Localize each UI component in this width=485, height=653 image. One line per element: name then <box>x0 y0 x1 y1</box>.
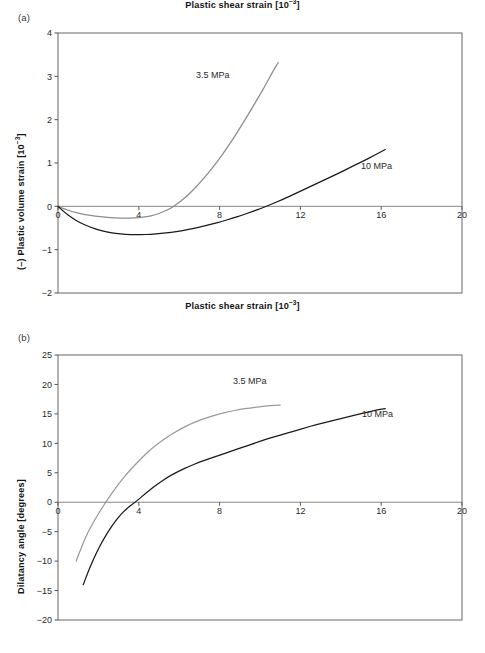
x-tick-label: 4 <box>136 210 141 220</box>
x-tick-label: 16 <box>376 210 386 220</box>
x-axis-title-a-exponent: −3 <box>289 299 297 306</box>
y-tick-label: 0 <box>47 202 52 212</box>
y-tick-label: 20 <box>42 380 52 390</box>
plot-frame <box>58 355 462 620</box>
y-tick-label: 2 <box>47 115 52 125</box>
y-tick-label: −10 <box>37 556 52 566</box>
x-tick-label: 8 <box>217 210 222 220</box>
series-line-3-5-mpa <box>76 405 280 561</box>
x-axis-title-b: Plastic shear strain [10−3] <box>0 0 485 10</box>
x-tick-label: 0 <box>55 210 60 220</box>
y-tick-label: 5 <box>47 468 52 478</box>
x-tick-label: 20 <box>457 210 467 220</box>
figure-container: (a) 43210−1−20481216203.5 MPa10 MPa Plas… <box>0 0 485 653</box>
y-axis-title-a: (–) Plastic volume strain [10−3] <box>16 133 26 270</box>
y-tick-label: 15 <box>42 409 52 419</box>
series-annotation-label: 10 MPa <box>361 161 392 171</box>
y-tick-label: −1 <box>42 245 52 255</box>
x-tick-label: 16 <box>376 506 386 516</box>
x-axis-title-b-exponent: −3 <box>289 0 297 5</box>
series-line-3-5-mpa <box>58 62 278 218</box>
x-axis-title-a-tail: ] <box>297 301 300 311</box>
series-line-10-mpa <box>58 150 385 235</box>
x-axis-title-a: Plastic shear strain [10−3] <box>0 301 485 311</box>
y-axis-title-b: Dilatancy angle [degrees] <box>16 479 26 594</box>
series-annotation-label: 10 MPa <box>362 409 393 419</box>
y-tick-label: −20 <box>37 615 52 625</box>
y-axis-title-a-tail: ] <box>16 133 26 136</box>
x-tick-label: 12 <box>295 506 305 516</box>
x-tick-label: 20 <box>457 506 467 516</box>
x-axis-title-a-text: Plastic shear strain [10 <box>185 301 289 311</box>
plot-frame <box>58 33 462 293</box>
y-tick-label: 25 <box>42 350 52 360</box>
y-tick-label: 0 <box>47 497 52 507</box>
x-tick-label: 12 <box>295 210 305 220</box>
chart-panel-b: (b) 2520151050−5−10−15−200481216203.5 MP… <box>0 320 485 653</box>
y-tick-label: −5 <box>42 527 52 537</box>
chart-panel-a: (a) 43210−1−20481216203.5 MPa10 MPa Plas… <box>0 0 485 320</box>
figure-caption-cropped <box>10 643 475 651</box>
x-axis-title-b-tail: ] <box>297 0 300 10</box>
y-tick-label: −2 <box>42 288 52 298</box>
y-axis-title-a-text: (–) Plastic volume strain [10 <box>16 144 26 270</box>
series-line-10-mpa <box>83 409 385 585</box>
y-tick-label: 10 <box>42 439 52 449</box>
series-annotation-label: 3.5 MPa <box>233 376 267 386</box>
x-axis-title-b-text: Plastic shear strain [10 <box>185 0 289 10</box>
x-tick-label: 4 <box>136 506 141 516</box>
y-tick-label: 3 <box>47 72 52 82</box>
x-tick-label: 8 <box>217 506 222 516</box>
x-tick-label: 0 <box>55 506 60 516</box>
y-tick-label: 4 <box>47 28 52 38</box>
plot-area-a: 43210−1−20481216203.5 MPa10 MPa <box>0 0 485 320</box>
y-axis-title-a-exponent: −3 <box>14 136 21 144</box>
y-tick-label: 1 <box>47 158 52 168</box>
series-annotation-label: 3.5 MPa <box>196 70 230 80</box>
y-tick-label: −15 <box>37 586 52 596</box>
plot-area-b: 2520151050−5−10−15−200481216203.5 MPa10 … <box>0 320 485 653</box>
